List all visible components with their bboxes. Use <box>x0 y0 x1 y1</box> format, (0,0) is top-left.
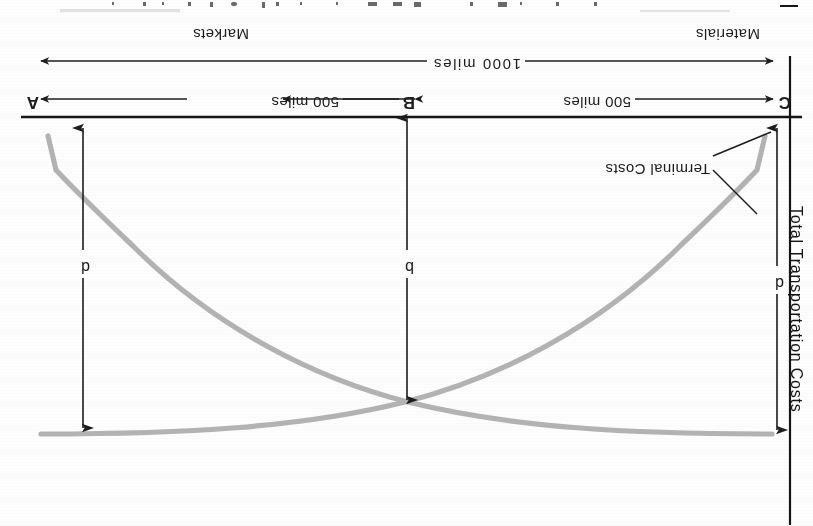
point-label-b: B <box>402 92 415 112</box>
rotated-figure-body: C B A 500 miles 500 miles 1000 miles Mar… <box>0 0 813 526</box>
distance-label-total: 1000 miles <box>432 56 521 73</box>
y-axis-title: Total Transportation Costs <box>787 206 805 413</box>
measure-label-d-right: d <box>81 258 90 276</box>
end-label-markets: Markets <box>193 26 249 43</box>
distance-label-left-segment: 500 miles <box>563 94 631 111</box>
point-label-a: A <box>26 92 39 112</box>
curve-from-materials <box>48 136 772 434</box>
measure-label-b: b <box>405 258 414 276</box>
point-label-c: C <box>778 92 791 112</box>
terminal-costs-label: Terminal Costs <box>605 161 710 178</box>
distance-label-right-segment: 500 miles <box>271 94 339 111</box>
curve-to-markets <box>41 136 765 434</box>
measure-label-d-left: d <box>775 274 784 292</box>
end-label-materials: Materials <box>696 26 760 43</box>
figure-canvas: C B A 500 miles 500 miles 1000 miles Mar… <box>0 0 813 526</box>
